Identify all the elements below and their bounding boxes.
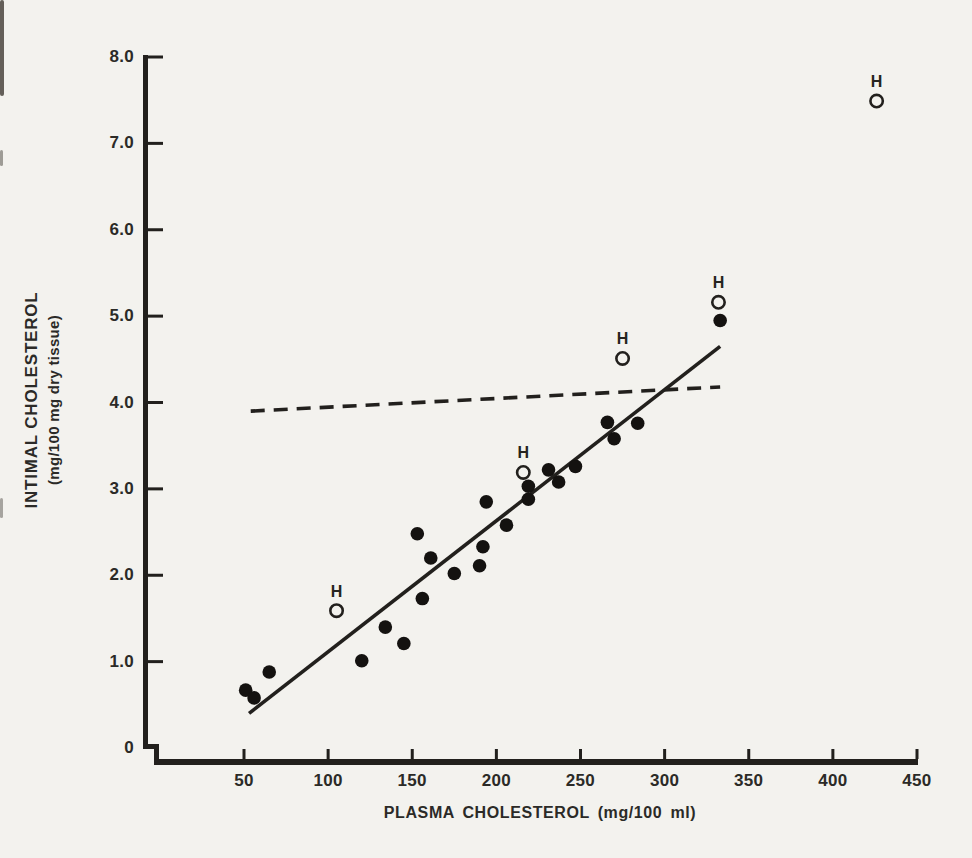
x-tick bbox=[495, 749, 498, 759]
data-point-filled bbox=[379, 620, 393, 634]
h-marker-label: H bbox=[608, 330, 638, 348]
x-tick-label: 250 bbox=[551, 771, 611, 791]
data-point-filled bbox=[500, 518, 514, 532]
data-point-filled bbox=[552, 475, 566, 489]
y-tick-label: 7.0 bbox=[86, 133, 134, 153]
x-tick bbox=[243, 749, 246, 759]
data-point-filled bbox=[355, 654, 369, 668]
x-tick-label: 450 bbox=[887, 771, 947, 791]
x-tick bbox=[579, 749, 582, 759]
x-tick bbox=[916, 749, 919, 759]
y-axis-title-line1: INTIMAL CHOLESTEROL bbox=[22, 200, 42, 600]
y-tick bbox=[148, 487, 163, 490]
x-tick-label: 200 bbox=[466, 771, 526, 791]
scan-edge-artifact bbox=[0, 0, 4, 96]
data-point-filled bbox=[416, 592, 430, 606]
y-tick bbox=[148, 574, 163, 577]
data-point-filled bbox=[448, 567, 462, 581]
x-tick-label: 400 bbox=[803, 771, 863, 791]
scan-edge-artifact bbox=[0, 498, 3, 518]
data-point-open bbox=[517, 466, 529, 478]
x-tick-label: 300 bbox=[635, 771, 695, 791]
y-tick-label: 2.0 bbox=[86, 565, 134, 585]
y-tick bbox=[148, 142, 163, 145]
h-marker-label: H bbox=[703, 274, 733, 292]
data-point-filled bbox=[522, 492, 536, 506]
data-point-filled bbox=[607, 432, 621, 446]
data-point-filled bbox=[473, 559, 487, 573]
y-tick-label: 0 bbox=[86, 738, 134, 758]
y-axis-line bbox=[143, 55, 148, 749]
data-point-filled bbox=[247, 691, 261, 705]
x-tick bbox=[411, 749, 414, 759]
data-point-filled bbox=[601, 416, 615, 430]
y-tick bbox=[148, 401, 163, 404]
data-point-filled bbox=[410, 527, 424, 541]
y-tick bbox=[148, 660, 163, 663]
data-point-open bbox=[616, 352, 628, 364]
y-tick bbox=[148, 56, 163, 59]
y-tick-label: 5.0 bbox=[86, 306, 134, 326]
x-axis-title: PLASMA CHOLESTEROL (mg/100 ml) bbox=[286, 804, 794, 822]
h-marker-label: H bbox=[322, 583, 352, 601]
y-tick-label: 1.0 bbox=[86, 652, 134, 672]
x-tick bbox=[747, 749, 750, 759]
y-tick-label: 8.0 bbox=[86, 47, 134, 67]
data-point-filled bbox=[631, 416, 645, 430]
chart-canvas bbox=[0, 0, 972, 858]
data-point-filled bbox=[397, 637, 411, 651]
y-axis-title: INTIMAL CHOLESTEROL (mg/100 mg dry tissu… bbox=[22, 200, 62, 600]
y-tick-label: 4.0 bbox=[86, 393, 134, 413]
y-tick-label: 6.0 bbox=[86, 220, 134, 240]
scan-edge-artifact bbox=[0, 150, 3, 166]
data-point-filled bbox=[479, 495, 493, 509]
x-tick-label: 50 bbox=[214, 771, 274, 791]
x-axis-line bbox=[154, 759, 918, 765]
regression-line bbox=[249, 346, 720, 713]
x-tick bbox=[831, 749, 834, 759]
scatter-plot-figure: INTIMAL CHOLESTEROL (mg/100 mg dry tissu… bbox=[0, 0, 972, 858]
data-point-open bbox=[712, 296, 724, 308]
data-point-open bbox=[330, 604, 342, 616]
data-point-filled bbox=[262, 665, 276, 679]
y-tick bbox=[148, 228, 163, 231]
h-marker-label: H bbox=[508, 444, 538, 462]
x-tick-label: 150 bbox=[382, 771, 442, 791]
x-tick-label: 100 bbox=[298, 771, 358, 791]
y-axis-title-line2: (mg/100 mg dry tissue) bbox=[45, 200, 62, 600]
data-point-filled bbox=[569, 460, 583, 474]
y-tick bbox=[148, 315, 163, 318]
data-point-filled bbox=[522, 479, 536, 493]
y-tick-label: 3.0 bbox=[86, 479, 134, 499]
data-point-filled bbox=[424, 551, 438, 565]
data-point-filled bbox=[476, 540, 490, 554]
x-tick bbox=[663, 749, 666, 759]
data-point-open bbox=[870, 95, 882, 107]
data-point-filled bbox=[713, 314, 727, 328]
x-tick bbox=[327, 749, 330, 759]
x-tick-label: 350 bbox=[719, 771, 779, 791]
h-marker-label: H bbox=[862, 73, 892, 91]
data-point-filled bbox=[542, 463, 556, 477]
